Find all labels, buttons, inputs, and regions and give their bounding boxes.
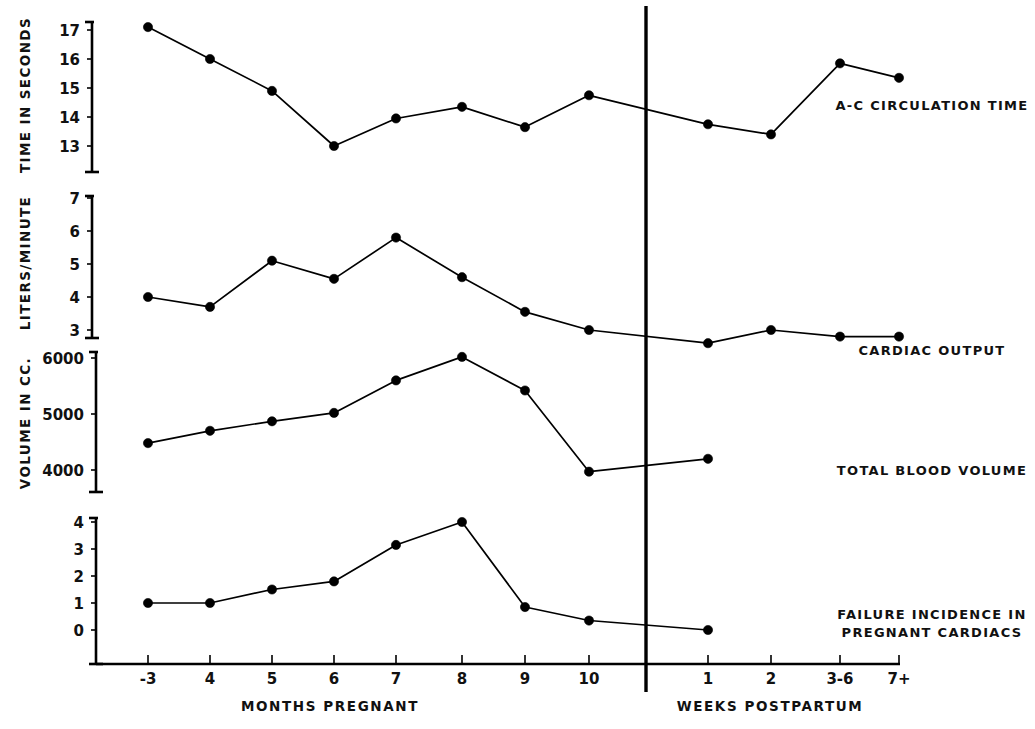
data-point [520, 602, 529, 611]
data-point [267, 417, 276, 426]
x-tick-marks [148, 655, 899, 664]
data-points-panel-4 [143, 517, 712, 634]
y-axis-panel-1 [85, 22, 99, 172]
data-point [520, 307, 529, 316]
data-point [391, 114, 400, 123]
y-tick-label: 4000 [42, 462, 84, 480]
x-tick-label: 4 [205, 670, 215, 688]
y-axis-title-panel-2: LITERS/MINUTE [17, 196, 33, 330]
y-tick-label: 1 [74, 595, 84, 613]
y-tick-labels-panel-2: 76543 [70, 190, 93, 340]
y-tick-label: 6000 [42, 350, 84, 368]
series-label-ac-circulation-time: A-C CIRCULATION TIME [835, 98, 1028, 113]
data-point [584, 91, 593, 100]
data-point [391, 540, 400, 549]
series-label-total-blood-volume: TOTAL BLOOD VOLUME [837, 463, 1027, 478]
data-points-panel-2 [143, 233, 903, 348]
series-label-failure-incidence-line-1: FAILURE INCIDENCE IN [837, 607, 1026, 622]
y-axis-title-panel-3: VOLUME IN CC. [17, 357, 33, 489]
data-point [329, 577, 338, 586]
x-axis-section-title-right: WEEKS POSTPARTUM [677, 698, 864, 714]
data-point [267, 256, 276, 265]
data-point [766, 325, 775, 334]
data-point [703, 625, 712, 634]
data-point [584, 467, 593, 476]
data-point [835, 332, 844, 341]
y-tick-label: 7 [70, 190, 80, 208]
data-point [205, 598, 214, 607]
panel-failure-incidence: 43210 FAILURE INCIDENCE IN PREGNANT CARD… [74, 514, 1027, 665]
y-axis-panel-4 [89, 518, 103, 664]
data-point [703, 454, 712, 463]
data-point [143, 292, 152, 301]
data-line-panel-3 [148, 357, 708, 472]
y-tick-label: 3 [74, 541, 84, 559]
panel-total-blood-volume: VOLUME IN CC. 600050004000 TOTAL BLOOD V… [17, 350, 1027, 493]
data-point [143, 23, 152, 32]
data-point [457, 102, 466, 111]
multi-panel-line-chart: TIME IN SECONDS 1716151413 A-C CIRCULATI… [0, 0, 1035, 729]
y-axis-panel-2 [85, 196, 99, 338]
x-tick-labels: -345678910123-67+ [140, 670, 911, 688]
x-tick-label: 2 [766, 670, 776, 688]
y-tick-label: 0 [74, 622, 84, 640]
data-point [143, 439, 152, 448]
y-tick-label: 6 [70, 223, 80, 241]
x-tick-label: 8 [457, 670, 467, 688]
series-label-cardiac-output: CARDIAC OUTPUT [859, 343, 1006, 358]
data-point [766, 130, 775, 139]
data-point [329, 408, 338, 417]
data-point [205, 54, 214, 63]
y-tick-label: 15 [59, 80, 80, 98]
x-tick-label: -3 [140, 670, 157, 688]
data-line-panel-2 [148, 238, 899, 344]
y-tick-label: 14 [59, 109, 80, 127]
data-point [457, 517, 466, 526]
data-point [267, 86, 276, 95]
data-point [584, 325, 593, 334]
data-point [457, 273, 466, 282]
y-axis-title-panel-1: TIME IN SECONDS [17, 17, 33, 173]
x-tick-label: 6 [329, 670, 339, 688]
y-tick-label: 4 [70, 289, 80, 307]
data-point [205, 426, 214, 435]
x-tick-label: 1 [703, 670, 713, 688]
data-point [267, 585, 276, 594]
data-point [520, 123, 529, 132]
data-point [391, 233, 400, 242]
y-tick-label: 17 [59, 22, 80, 40]
x-axis: -345678910123-67+ MONTHS PREGNANT WEEKS … [96, 655, 911, 714]
panel-cardiac-output: LITERS/MINUTE 76543 CARDIAC OUTPUT [17, 190, 1006, 359]
data-point [143, 598, 152, 607]
y-tick-labels-panel-3: 600050004000 [42, 350, 97, 480]
y-tick-label: 3 [70, 322, 80, 340]
x-tick-label: 7 [391, 670, 401, 688]
data-point [835, 59, 844, 68]
data-point [894, 73, 903, 82]
y-tick-label: 16 [59, 51, 80, 69]
data-point [520, 386, 529, 395]
data-point [894, 332, 903, 341]
x-tick-label: 5 [267, 670, 277, 688]
x-axis-section-title-left: MONTHS PREGNANT [241, 698, 419, 714]
data-points-panel-3 [143, 352, 712, 476]
data-point [391, 376, 400, 385]
y-tick-label: 4 [74, 514, 84, 532]
x-tick-label: 3-6 [826, 670, 853, 688]
data-point [457, 352, 466, 361]
y-tick-labels-panel-4: 43210 [74, 514, 97, 640]
data-point [584, 616, 593, 625]
y-tick-label: 5 [70, 256, 80, 274]
data-point [329, 274, 338, 283]
panel-ac-circulation-time: TIME IN SECONDS 1716151413 A-C CIRCULATI… [17, 17, 1029, 173]
data-point [703, 120, 712, 129]
x-tick-label: 9 [520, 670, 530, 688]
y-tick-label: 2 [74, 568, 84, 586]
data-line-panel-4 [148, 522, 708, 630]
data-points-panel-1 [143, 23, 903, 151]
y-axis-panel-3 [89, 352, 103, 492]
data-point [205, 302, 214, 311]
x-tick-label: 10 [579, 670, 600, 688]
figure-root: TIME IN SECONDS 1716151413 A-C CIRCULATI… [0, 0, 1035, 729]
data-point [329, 141, 338, 150]
